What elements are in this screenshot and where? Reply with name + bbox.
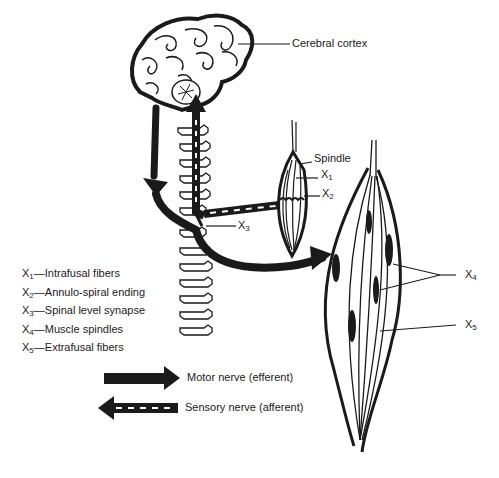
muscle-spindle-icon xyxy=(279,120,307,256)
marker-x2: X2 xyxy=(322,187,334,201)
marker-x5: X5 xyxy=(465,318,477,332)
spindle-leader xyxy=(300,162,312,164)
marker-key: X1—Intrafusal fibers X2—Annulo-spiral en… xyxy=(22,266,145,359)
key-row-x4: X4—Muscle spindles xyxy=(22,322,145,341)
x4-x5-leaders xyxy=(380,264,456,331)
key-row-x5: X5—Extrafusal fibers xyxy=(22,340,145,359)
cerebral-cortex-label: Cerebral cortex xyxy=(292,37,367,49)
marker-x4: X4 xyxy=(465,268,477,282)
key-row-x1: X1—Intrafusal fibers xyxy=(22,266,145,285)
key-row-x3: X3—Spinal level synapse xyxy=(22,303,145,322)
spindle-label: Spindle xyxy=(314,152,351,164)
marker-x3: X3 xyxy=(238,219,250,233)
motor-nerve-label: Motor nerve (efferent) xyxy=(187,371,293,383)
skeletal-muscle-icon xyxy=(325,140,400,452)
sensory-nerve-legend-arrow xyxy=(98,396,178,420)
marker-x1: X1 xyxy=(321,168,333,182)
brain-icon xyxy=(132,16,252,110)
motor-nerve-legend-arrow xyxy=(104,366,180,390)
sensory-nerve-label: Sensory nerve (afferent) xyxy=(185,401,303,413)
key-row-x2: X2—Annulo-spiral ending xyxy=(22,285,145,304)
